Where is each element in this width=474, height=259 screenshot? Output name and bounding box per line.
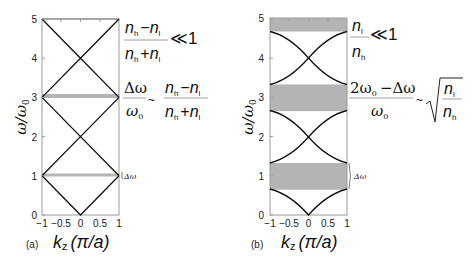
gap-band-1 (270, 163, 347, 190)
delta-omega-label: Δω (123, 172, 137, 181)
y-tick-4: 4 (258, 53, 264, 64)
gap-band-1 (42, 174, 119, 177)
panel-label-b: (b) (251, 239, 263, 250)
gap-band-3 (270, 84, 347, 111)
svg-text:≪1: ≪1 (170, 29, 197, 48)
svg-text:nh: nh (352, 43, 365, 62)
y-tick-2: 2 (258, 132, 264, 143)
delta-marker (349, 163, 351, 189)
y-tick-5: 5 (258, 13, 264, 24)
plot-frame (42, 19, 119, 215)
svg-text:≪1: ≪1 (370, 25, 397, 44)
y-tick-1: 1 (31, 171, 37, 182)
x-tick-m05: −0.5 (279, 218, 299, 229)
equation-gap-b: 2ω0−Δω ω0 ~ nl nh (349, 78, 463, 122)
delta-omega-label: Δω (353, 172, 367, 181)
y-tick-5: 5 (31, 14, 37, 25)
svg-text:nh−nl: nh−nl (165, 79, 201, 98)
svg-text:ω0: ω0 (126, 102, 143, 121)
svg-text:nh: nh (443, 103, 456, 122)
figure: 0 1 2 3 4 5 −1 −0.5 0 0.5 1 ω/ω0 (a) kz(… (0, 0, 474, 259)
y-tick-3: 3 (258, 92, 264, 103)
svg-text:~: ~ (416, 93, 423, 107)
x-tick-1: 1 (116, 218, 122, 229)
panel-b: 0 1 2 3 4 5 −1 −0.5 0 0.5 1 ω/ω0 (b) kz(… (239, 13, 463, 252)
panel-a: 0 1 2 3 4 5 −1 −0.5 0 0.5 1 ω/ω0 (a) kz(… (12, 14, 208, 252)
x-tick-m1: −1 (36, 218, 48, 229)
x-tick-m05: −0.5 (51, 218, 71, 229)
x-axis-label: kz(π/a) (281, 232, 338, 252)
y-axis-label: ω/ω0 (239, 99, 258, 135)
y-tick-2: 2 (31, 132, 37, 143)
svg-text:Δω: Δω (124, 79, 147, 97)
svg-text:nl: nl (444, 80, 455, 99)
y-tick-3: 3 (31, 92, 37, 103)
y-tick-1: 1 (258, 171, 264, 182)
x-tick-05: 0.5 (93, 218, 107, 229)
x-tick-m1: −1 (264, 218, 276, 229)
svg-text:ω/ω0: ω/ω0 (239, 99, 258, 135)
x-tick-1: 1 (344, 218, 350, 229)
x-tick-05: 0.5 (321, 218, 335, 229)
x-tick-0: 0 (78, 218, 84, 229)
x-axis-label: kz(π/a) (53, 232, 110, 252)
svg-text:2ω0−Δω: 2ω0−Δω (350, 79, 416, 98)
equation-gap-a: Δω ω0 ~ nh−nl nh+nl (123, 79, 208, 122)
equation-condition-b: nl nh ≪1 (350, 17, 397, 62)
svg-text:nl: nl (352, 17, 363, 36)
svg-text:nh+nl: nh+nl (125, 45, 161, 64)
svg-text:nh−nl: nh−nl (125, 19, 161, 38)
x-tick-0: 0 (306, 218, 312, 229)
panel-label-a: (a) (26, 239, 38, 250)
gap-band-3 (42, 94, 119, 98)
equation-condition-a: nh−nl nh+nl ≪1 (124, 19, 197, 64)
y-tick-4: 4 (31, 53, 37, 64)
svg-text:~: ~ (148, 93, 155, 107)
svg-text:nh+nl: nh+nl (165, 103, 201, 122)
y-axis-label: ω/ω0 (12, 99, 31, 135)
svg-text:ω/ω0: ω/ω0 (12, 99, 31, 135)
dispersion-bands (42, 19, 119, 215)
svg-text:ω0: ω0 (371, 102, 388, 121)
